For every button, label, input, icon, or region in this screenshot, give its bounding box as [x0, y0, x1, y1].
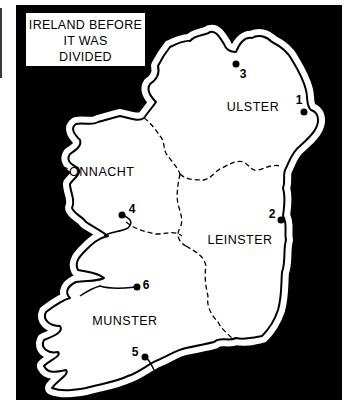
province-label-leinster: LEINSTER: [207, 233, 272, 247]
marker-4-dot: [119, 212, 126, 219]
marker-1-dot: [301, 109, 308, 116]
title-line-2: IT WAS: [26, 33, 145, 49]
marker-6-dot: [134, 284, 141, 291]
marker-2-label: 2: [269, 207, 276, 221]
coastline: [43, 32, 318, 391]
province-label-ulster: ULSTER: [227, 100, 279, 114]
marker-6-label: 6: [143, 278, 150, 292]
title-line-3: DIVIDED: [26, 49, 145, 65]
province-label-connacht: CONNACHT: [60, 165, 135, 179]
marker-5-dot: [142, 354, 149, 361]
marker-5-label: 5: [132, 345, 139, 359]
title-line-1: IRELAND BEFORE: [26, 17, 145, 33]
map-title-box: IRELAND BEFORE IT WAS DIVIDED: [26, 13, 145, 66]
marker-4-label: 4: [129, 202, 136, 216]
marker-3-label: 3: [240, 67, 247, 81]
marker-3-dot: [233, 61, 240, 68]
marker-2-dot: [278, 217, 285, 224]
marker-1-label: 1: [296, 93, 303, 107]
province-label-munster: MUNSTER: [92, 314, 157, 328]
